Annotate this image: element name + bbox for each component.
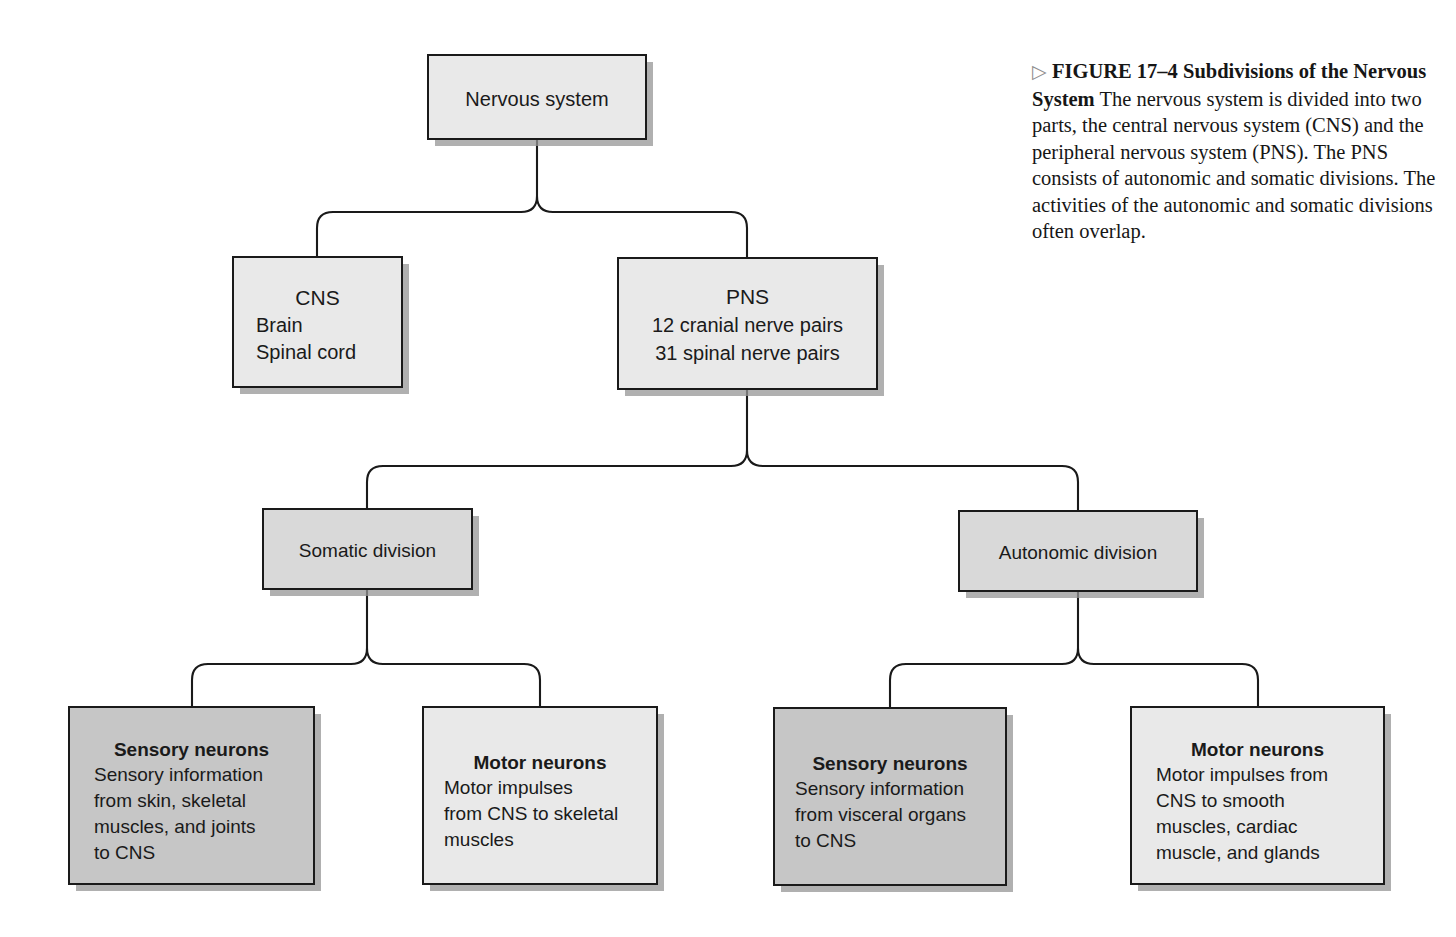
edge-root-split — [317, 140, 537, 256]
node-title: CNS — [234, 258, 401, 310]
edge-somatic-split-right — [367, 648, 540, 706]
triangle-right-icon: ▷ — [1032, 61, 1047, 82]
node-title: Sensory neurons — [70, 708, 313, 761]
node-title: Nervous system — [429, 56, 645, 142]
edge-root-to-pns — [537, 196, 747, 257]
node-title: Sensory neurons — [775, 709, 1005, 775]
node-somatic-division[interactable]: Somatic division — [262, 508, 473, 590]
edge-autonomic-split-left — [890, 592, 1078, 707]
edge-somatic-split-left — [192, 590, 367, 706]
node-title: Autonomic division — [960, 512, 1196, 594]
node-title: Motor neurons — [424, 708, 656, 774]
node-title: PNS — [619, 259, 876, 309]
figure-caption: ▷FIGURE 17–4 Subdivisions of the Nervous… — [1032, 58, 1436, 245]
figure-caption-body: The nervous system is divided into two p… — [1032, 88, 1435, 243]
node-pns[interactable]: PNS 12 cranial nerve pairs 31 spinal ner… — [617, 257, 878, 390]
node-body: Motor impulses from CNS to smooth muscle… — [1132, 761, 1383, 866]
node-title: Somatic division — [264, 510, 471, 592]
figure-canvas: Nervous system CNS Brain Spinal cord PNS… — [0, 0, 1456, 937]
node-cns[interactable]: CNS Brain Spinal cord — [232, 256, 403, 388]
node-body: Motor impulses from CNS to skeletal musc… — [424, 774, 656, 853]
node-body: Brain Spinal cord — [234, 310, 401, 366]
node-somatic-motor-neurons[interactable]: Motor neurons Motor impulses from CNS to… — [422, 706, 658, 885]
node-body: 12 cranial nerve pairs 31 spinal nerve p… — [619, 309, 876, 367]
node-autonomic-division[interactable]: Autonomic division — [958, 510, 1198, 592]
edge-pns-split-right — [747, 450, 1078, 510]
node-somatic-sensory-neurons[interactable]: Sensory neurons Sensory information from… — [68, 706, 315, 885]
node-body: Sensory information from visceral organs… — [775, 775, 1005, 854]
node-nervous-system[interactable]: Nervous system — [427, 54, 647, 140]
edge-pns-split-left — [367, 390, 747, 508]
node-autonomic-motor-neurons[interactable]: Motor neurons Motor impulses from CNS to… — [1130, 706, 1385, 885]
edge-autonomic-split-right — [1078, 648, 1258, 706]
node-title: Motor neurons — [1132, 708, 1383, 761]
node-autonomic-sensory-neurons[interactable]: Sensory neurons Sensory information from… — [773, 707, 1007, 886]
node-body: Sensory information from skin, skeletal … — [70, 761, 313, 866]
